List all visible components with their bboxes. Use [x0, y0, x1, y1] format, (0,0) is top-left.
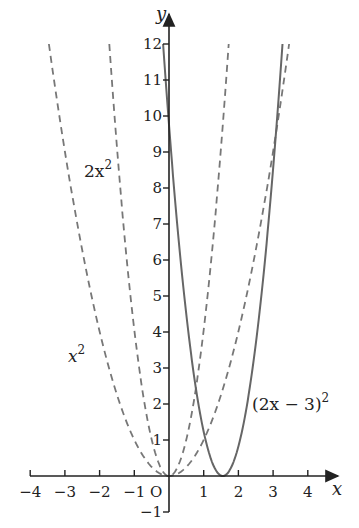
y-tick-label: 10 [143, 107, 162, 125]
y-axis-label: y [155, 3, 167, 24]
y-tick-label: 2 [152, 395, 162, 413]
y-tick-label: 4 [152, 323, 162, 341]
x-tick-label: −3 [54, 483, 76, 501]
x-tick-label: 3 [268, 483, 278, 501]
y-tick-label: 12 [143, 35, 162, 53]
y-tick-label: 9 [152, 143, 162, 161]
x-tick-label: −2 [89, 483, 111, 501]
x-tick-label: −1 [123, 483, 145, 501]
x-tick-label: 2 [234, 483, 244, 501]
graph-canvas: −4−3−2−11234 −1123456789101112 x y O 2x2… [0, 0, 359, 528]
label-2x-minus-3-squared: (2x − 3)2 [252, 391, 329, 414]
y-tick-label: 1 [152, 431, 162, 449]
y-tick-label: 7 [152, 215, 162, 233]
origin-label: O [150, 483, 162, 501]
y-ticks: −1123456789101112 [140, 35, 169, 521]
x-tick-label: 1 [199, 483, 209, 501]
y-tick-label: 6 [152, 251, 162, 269]
label-2x-squared: 2x2 [84, 158, 112, 181]
label-x-squared: x2 [68, 343, 85, 366]
x-tick-label: −4 [19, 483, 41, 501]
y-tick-label: −1 [140, 503, 162, 521]
x-axis-label: x [332, 478, 342, 499]
y-tick-label: 5 [152, 287, 162, 305]
y-tick-label: 11 [143, 71, 162, 89]
y-tick-label: 3 [152, 359, 162, 377]
y-tick-label: 8 [152, 179, 162, 197]
x-tick-label: 4 [303, 483, 313, 501]
